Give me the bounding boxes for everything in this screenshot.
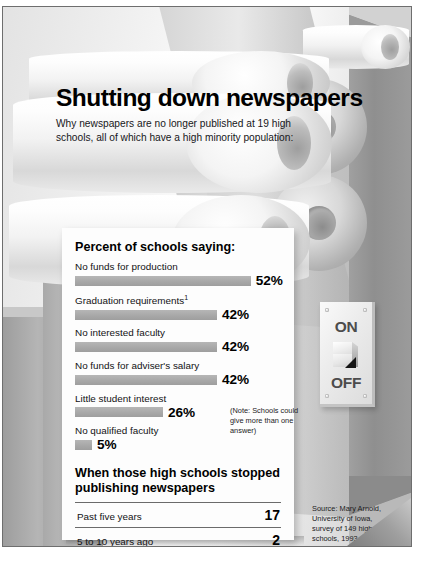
bar-line: 42%	[75, 373, 281, 387]
bar-row: No funds for production52%	[75, 261, 281, 288]
bar-label: Graduation requirements1	[75, 294, 281, 306]
light-switch-plate[interactable]: ON OFF	[320, 302, 375, 407]
bar	[75, 310, 217, 320]
switch-on-label: ON	[320, 318, 372, 336]
section-2-heading: When those high schools stopped publishi…	[75, 466, 281, 497]
bar-line: 52%	[75, 274, 281, 288]
bar-row: No interested faculty42%	[75, 327, 281, 354]
bar-value: 26%	[168, 406, 195, 420]
toggle-upper-face	[333, 342, 352, 354]
bar-value: 52%	[256, 274, 283, 288]
data-card: Percent of schools saying: No funds for …	[62, 228, 294, 540]
page-subtitle: Why newspapers are no longer published a…	[56, 117, 324, 144]
data-table: Past five years175 to 10 years ago2	[75, 503, 281, 547]
table-row: 5 to 10 years ago2	[75, 528, 281, 547]
bar	[75, 342, 217, 352]
roll-core-hole	[381, 34, 399, 60]
switch-off-label: OFF	[320, 374, 372, 392]
page-title: Shutting down newspapers	[56, 85, 366, 110]
infographic-frame: Shutting down newspapers Why newspapers …	[2, 6, 412, 547]
title-block: Shutting down newspapers Why newspapers …	[56, 85, 366, 144]
table-row-value: 2	[272, 532, 280, 547]
bar	[75, 375, 217, 385]
bar-value: 42%	[222, 373, 249, 387]
bar-line: 5%	[75, 438, 281, 452]
bar	[75, 276, 251, 286]
section-1-heading: Percent of schools saying:	[75, 240, 281, 254]
screw-icon	[363, 394, 367, 398]
bar-label: No funds for production	[75, 261, 281, 272]
bar-row: Graduation requirements142%	[75, 294, 281, 322]
table-row-label: Past five years	[77, 511, 142, 522]
bar-label: Little student interest	[75, 393, 281, 404]
bar-value: 5%	[97, 438, 117, 452]
table-row: Past five years17	[75, 503, 281, 527]
bar-label: No funds for adviser's salary	[75, 360, 281, 371]
table-row-value: 17	[264, 507, 280, 523]
screw-icon	[325, 394, 329, 398]
table-row-label: 5 to 10 years ago	[77, 536, 153, 547]
footnote-marker: 1	[184, 294, 188, 301]
bar-label: No interested faculty	[75, 327, 281, 338]
screw-icon	[325, 308, 329, 312]
bar	[75, 440, 92, 450]
bar-value: 42%	[222, 308, 249, 322]
section-2: When those high schools stopped publishi…	[75, 466, 281, 547]
bar-row: No funds for adviser's salary42%	[75, 360, 281, 387]
bar	[75, 407, 163, 417]
bar-line: 42%	[75, 308, 281, 322]
bar-line: 42%	[75, 340, 281, 354]
bar-value: 42%	[222, 340, 249, 354]
chart-note: (Note: Schools could give more than one …	[230, 406, 304, 436]
infographic-canvas: Shutting down newspapers Why newspapers …	[0, 0, 435, 569]
switch-toggle-icon[interactable]	[333, 342, 357, 368]
screw-icon	[363, 308, 367, 312]
